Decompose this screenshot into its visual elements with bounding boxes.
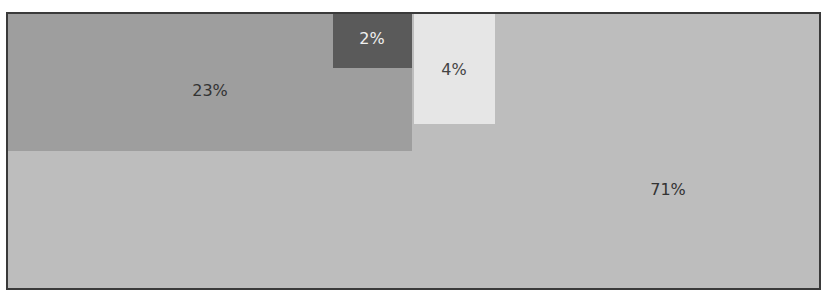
treemap-tile-2: 2% [333, 14, 412, 68]
treemap-tile-4: 4% [414, 14, 495, 124]
tile-label-71: 71% [650, 180, 686, 199]
tile-label-4: 4% [441, 60, 466, 79]
tile-label-2: 2% [359, 29, 384, 48]
cut-off-title-text [6, 0, 821, 5]
treemap-chart: 71% 23% 2% 4% [6, 12, 821, 290]
tile-label-23: 23% [192, 81, 228, 100]
